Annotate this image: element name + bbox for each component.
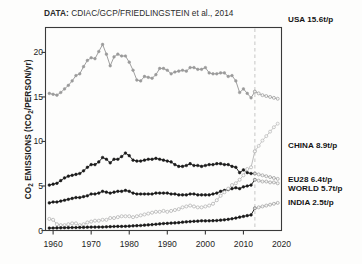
series-layer — [48, 43, 279, 229]
plot-canvas — [0, 0, 362, 264]
series-label-eu28: EU28 6.4t/p — [288, 175, 332, 184]
series-label-usa: USA 15.6t/p — [288, 15, 333, 24]
series-label-india: INDIA 2.5t/p — [288, 198, 334, 207]
plot-frame — [46, 28, 282, 231]
emissions-per-capita-chart: DATA: CDIAC/GCP/FRIEDLINGSTEIN et al., 2… — [0, 0, 362, 264]
series-label-world: WORLD 5.7t/p — [288, 184, 343, 193]
series-label-china: CHINA 8.9t/p — [288, 141, 337, 150]
